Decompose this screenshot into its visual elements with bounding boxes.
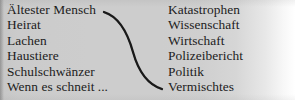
scanned-figure: Ältester Mensch Heirat Lachen Haustiere … bbox=[0, 0, 295, 100]
list-item: Vermischtes bbox=[168, 79, 290, 94]
list-item: Heirat bbox=[7, 17, 112, 32]
list-item: Schulschwänzer bbox=[7, 64, 112, 79]
topics-column: Ältester Mensch Heirat Lachen Haustiere … bbox=[7, 0, 112, 94]
list-item: Wirtschaft bbox=[168, 33, 290, 48]
list-item: Polizeibericht bbox=[168, 48, 290, 63]
list-item: Wissenschaft bbox=[168, 17, 290, 32]
list-item: Haustiere bbox=[7, 48, 112, 63]
list-item: Politik bbox=[168, 64, 290, 79]
list-item: Lachen bbox=[7, 33, 112, 48]
list-item: Katastrophen bbox=[168, 2, 290, 17]
categories-column: Katastrophen Wissenschaft Wirtschaft Pol… bbox=[168, 0, 290, 94]
list-item: Wenn es schneit ... bbox=[7, 79, 112, 94]
list-item: Ältester Mensch bbox=[7, 2, 112, 17]
